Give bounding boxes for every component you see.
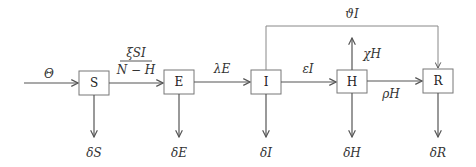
- i-to-r-label: ϑI: [345, 7, 359, 21]
- e-to-i-label: λE: [213, 62, 231, 76]
- s-to-e-numerator: ξSI: [126, 46, 146, 60]
- compartment-r: R: [423, 69, 453, 93]
- compartment-r-label: R: [433, 74, 443, 88]
- compartment-s: S: [79, 71, 109, 95]
- compartment-h-label: H: [347, 75, 357, 89]
- death-e-label: δE: [171, 146, 187, 160]
- i-to-h-label: εI: [302, 62, 313, 76]
- compartment-e: E: [164, 70, 194, 94]
- inflow-label: Θ: [44, 67, 54, 81]
- death-h-label: δH: [343, 146, 361, 160]
- compartmental-diagram: Θ S ξSI N − H δS E λE δE I εI δI ϑI H χH…: [0, 0, 476, 167]
- h-to-r-label: ρH: [381, 87, 400, 101]
- compartment-i-label: I: [264, 75, 269, 89]
- compartment-e-label: E: [175, 75, 184, 89]
- compartment-s-label: S: [90, 76, 98, 90]
- s-to-e-denominator: N − H: [116, 63, 156, 77]
- compartment-h: H: [337, 70, 367, 93]
- death-r-label: δR: [430, 146, 446, 160]
- death-s-label: δS: [86, 146, 101, 160]
- h-up-label: χH: [362, 47, 381, 61]
- death-i-label: δI: [260, 146, 272, 160]
- compartment-i: I: [251, 70, 281, 94]
